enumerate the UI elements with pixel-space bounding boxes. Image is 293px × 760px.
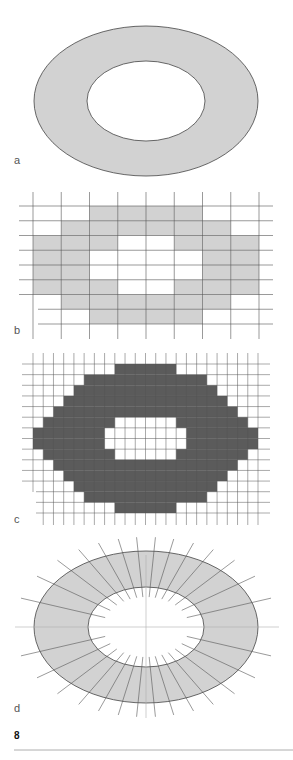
filled-cell xyxy=(146,206,174,221)
filled-cell xyxy=(33,236,61,251)
filled-cell-span xyxy=(176,449,248,460)
panel-c-fine-raster: c xyxy=(14,353,270,525)
filled-cell xyxy=(146,309,174,324)
figure-number: 8 xyxy=(14,730,20,741)
filled-cell-span xyxy=(186,428,258,439)
filled-cell xyxy=(231,280,259,295)
filled-cell-span xyxy=(186,439,258,450)
panel-a-continuous-ring: a xyxy=(14,26,258,176)
filled-cell xyxy=(203,221,231,236)
filled-cell xyxy=(174,236,202,251)
filled-cell-span xyxy=(33,428,105,439)
filled-cell xyxy=(118,206,146,221)
filled-cell-span xyxy=(43,417,115,428)
filled-cell xyxy=(203,250,231,265)
filled-cell xyxy=(90,280,118,295)
panel-label-c: c xyxy=(14,513,20,525)
filled-cell xyxy=(33,265,61,280)
filled-cell xyxy=(203,280,231,295)
filled-cell xyxy=(118,295,146,310)
filled-cell xyxy=(118,309,146,324)
filled-cell xyxy=(61,265,89,280)
filled-cell xyxy=(90,309,118,324)
filled-cell xyxy=(90,206,118,221)
filled-cell xyxy=(61,250,89,265)
figure-8: a b c d 8 xyxy=(0,0,293,760)
filled-cell xyxy=(231,265,259,280)
filled-cell xyxy=(203,295,231,310)
filled-cell xyxy=(231,250,259,265)
filled-cell xyxy=(90,221,118,236)
filled-cell xyxy=(118,221,146,236)
filled-cell-span xyxy=(43,449,115,460)
filled-cell xyxy=(146,295,174,310)
filled-cell xyxy=(146,221,174,236)
filled-cell xyxy=(61,236,89,251)
panel-label-b: b xyxy=(14,324,20,336)
filled-cell xyxy=(33,250,61,265)
inner-ellipse xyxy=(87,61,205,141)
filled-cell-span xyxy=(33,439,105,450)
panel-b-coarse-raster: b xyxy=(14,192,273,339)
filled-cell xyxy=(174,280,202,295)
filled-cell xyxy=(174,206,202,221)
panel-d-radial-sectors: d xyxy=(14,537,279,718)
filled-cell xyxy=(90,236,118,251)
filled-cell xyxy=(174,309,202,324)
filled-cell xyxy=(61,221,89,236)
filled-cell xyxy=(203,265,231,280)
filled-cell xyxy=(61,280,89,295)
panel-label-d: d xyxy=(14,702,20,714)
filled-cell xyxy=(174,295,202,310)
filled-cell xyxy=(90,295,118,310)
filled-cell xyxy=(61,295,89,310)
filled-cell xyxy=(203,236,231,251)
filled-cell xyxy=(33,280,61,295)
panel-label-a: a xyxy=(14,154,21,166)
filled-cell-span xyxy=(176,417,248,428)
filled-cell xyxy=(231,236,259,251)
filled-cell xyxy=(174,221,202,236)
